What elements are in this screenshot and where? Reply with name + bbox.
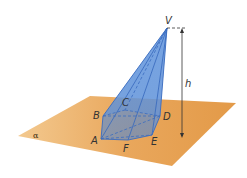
label-e: E	[151, 136, 158, 147]
label-c: C	[122, 97, 129, 108]
label-a: A	[90, 135, 98, 146]
pyramid-diagram: V h B C D A F E α	[0, 0, 247, 178]
label-b: B	[93, 110, 100, 121]
label-f: F	[123, 143, 129, 154]
label-v: V	[165, 15, 173, 26]
label-h: h	[185, 78, 191, 89]
label-d: D	[163, 111, 171, 122]
label-alpha: α	[33, 131, 39, 140]
arrow-up-icon	[180, 28, 184, 33]
